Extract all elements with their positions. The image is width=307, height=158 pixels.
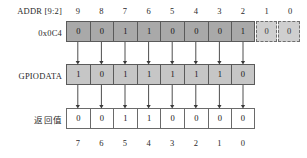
top-bit-index-row: 9876543210	[66, 7, 302, 16]
gpiodata-bit-cell-3: 1	[160, 64, 184, 85]
addr-header-label: ADDR [9:2]	[4, 7, 62, 16]
bottom-index-4: 4	[137, 139, 161, 148]
top-index-0: 0	[278, 7, 302, 16]
bottom-index-1: 1	[208, 139, 232, 148]
gpiodata-label: GPIODATA	[4, 72, 62, 81]
bottom-bit-index-row: 76543210	[66, 139, 255, 148]
top-index-6: 6	[137, 7, 161, 16]
bottom-index-7: 7	[66, 139, 90, 148]
bottom-index-0: 0	[231, 139, 255, 148]
top-index-9: 9	[66, 7, 90, 16]
top-index-4: 4	[184, 7, 208, 16]
gpiodata-bit-cell-row: 10111110	[66, 64, 255, 85]
gpiodata-bit-cell-0: 0	[231, 64, 255, 85]
bottom-index-5: 5	[113, 139, 137, 148]
addr-bit-cell-7: 1	[113, 21, 137, 42]
return-bit-cell-0: 0	[231, 108, 255, 129]
return-value-label: 返回值	[4, 116, 62, 125]
gpiodata-bit-cell-1: 1	[208, 64, 232, 85]
top-index-2: 2	[231, 7, 255, 16]
addr-bit-cell-4: 0	[184, 21, 208, 42]
return-bit-cell-7: 0	[66, 108, 90, 129]
addr-bit-cell-row: 0011000100	[66, 21, 300, 42]
top-index-7: 7	[113, 7, 137, 16]
return-bit-cell-6: 0	[90, 108, 114, 129]
bottom-index-3: 3	[160, 139, 184, 148]
gpio-address-mask-diagram: 9876543210 ADDR [9:2] 0x0C4 0011000100 G…	[0, 0, 307, 158]
addr-bit-cell-2: 1	[231, 21, 255, 42]
top-index-3: 3	[208, 7, 232, 16]
addr-bit-cell-6: 1	[137, 21, 161, 42]
addr-bit-cell-1: 0	[256, 21, 278, 42]
gpiodata-bit-cell-5: 1	[113, 64, 137, 85]
bottom-index-2: 2	[184, 139, 208, 148]
addr-bit-cell-3: 0	[208, 21, 232, 42]
addr-bit-cell-0: 0	[278, 21, 300, 42]
return-bit-cell-5: 1	[113, 108, 137, 129]
gpiodata-bit-cell-7: 1	[66, 64, 90, 85]
addr-bit-cell-5: 0	[160, 21, 184, 42]
return-bit-cell-row: 00110000	[66, 108, 255, 129]
top-index-8: 8	[90, 7, 114, 16]
addr-bit-cell-9: 0	[66, 21, 90, 42]
gpiodata-bit-cell-4: 1	[137, 64, 161, 85]
return-bit-cell-2: 0	[184, 108, 208, 129]
gpiodata-bit-cell-2: 1	[184, 64, 208, 85]
return-bit-cell-3: 0	[160, 108, 184, 129]
addr-bit-cell-8: 0	[90, 21, 114, 42]
return-bit-cell-1: 0	[208, 108, 232, 129]
gpiodata-bit-cell-6: 0	[90, 64, 114, 85]
top-index-1: 1	[255, 7, 279, 16]
bottom-index-6: 6	[90, 139, 114, 148]
return-bit-cell-4: 1	[137, 108, 161, 129]
addr-value-label: 0x0C4	[4, 29, 62, 38]
top-index-5: 5	[160, 7, 184, 16]
